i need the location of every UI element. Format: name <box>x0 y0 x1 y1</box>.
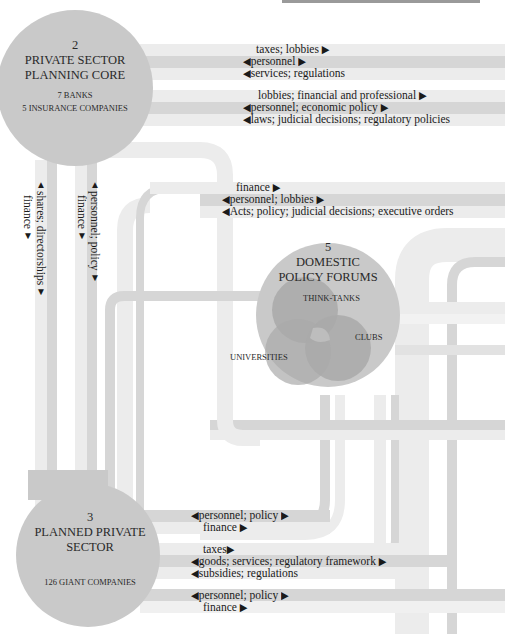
vertical-flow-left: ▲shares; directorships▼ <box>34 178 47 298</box>
policy-forums-title: 5 DOMESTIC POLICY FORUMS <box>258 240 398 285</box>
flow-label: ◀subsidies; regulations <box>191 567 298 580</box>
planning-core-insurance: 5 INSURANCE COMPANIES <box>0 102 150 115</box>
policy-forums-number: 5 <box>258 240 398 255</box>
planning-core-banks: 7 BANKS <box>0 89 150 102</box>
arrow-up-icon: ▲ <box>36 178 46 191</box>
top-rule <box>282 0 480 3</box>
arrow-up-icon: ▲ <box>90 178 100 191</box>
flow-label: ◀laws; judicial decisions; regulatory po… <box>243 113 450 126</box>
vertical-flow-left-2: finance▼ <box>21 195 34 242</box>
arrow-down-icon: ▼ <box>23 229 33 242</box>
planning-core-subtitle: 7 BANKS 5 INSURANCE COMPANIES <box>0 89 150 115</box>
planned-sector-title-2: SECTOR <box>15 540 165 555</box>
planning-core-title-2: PLANNING CORE <box>0 68 150 83</box>
forum-input-bands <box>110 188 280 510</box>
planning-core-title-1: PRIVATE SECTOR <box>0 53 150 68</box>
planning-core-node <box>0 10 153 166</box>
arrow-right-icon: ▶ <box>281 508 289 522</box>
mid-horizontal-band <box>210 420 505 430</box>
planning-core-title: 2 PRIVATE SECTOR PLANNING CORE <box>0 38 150 83</box>
flow-label: ◀services; regulations <box>243 67 345 80</box>
planned-sector-subtitle: 126 GIANT COMPANIES <box>15 575 165 590</box>
venn-label-think-tanks: THINK-TANKS <box>303 291 360 306</box>
arrow-right-icon: ▶ <box>240 520 248 534</box>
arrow-left-icon: ◀ <box>191 588 199 602</box>
arrow-left-icon: ◀ <box>222 204 230 218</box>
planned-sector-number: 3 <box>15 510 165 525</box>
flow-label: finance ▶ <box>203 521 247 534</box>
venn-label-clubs: CLUBS <box>355 330 382 345</box>
arrow-right-icon: ▶ <box>281 588 289 602</box>
arrow-left-icon: ◀ <box>243 112 251 126</box>
vertical-flow-right: ▲personnel; policy▼ <box>88 178 101 284</box>
planning-core-number: 2 <box>0 38 150 53</box>
flow-label: finance ▶ <box>203 601 247 614</box>
arrow-right-icon: ▶ <box>322 42 330 56</box>
arrow-down-icon: ▼ <box>90 271 100 284</box>
arrow-down-icon: ▼ <box>77 229 87 242</box>
flow-label: ◀Acts; policy; judicial decisions; execu… <box>222 205 454 218</box>
arrow-right-icon: ▶ <box>419 88 427 102</box>
venn-label-universities: UNIVERSITIES <box>230 350 288 365</box>
forum-band-1 <box>150 182 505 194</box>
planned-sector-title-1: PLANNED PRIVATE <box>15 525 165 540</box>
policy-forums-title-1: DOMESTIC <box>258 255 398 270</box>
policy-forums-title-2: POLICY FORUMS <box>258 270 398 285</box>
planned-sector-title: 3 PLANNED PRIVATE SECTOR <box>15 510 165 555</box>
arrow-left-icon: ◀ <box>191 566 199 580</box>
arrow-left-icon: ◀ <box>191 508 199 522</box>
arrow-right-icon: ▶ <box>240 600 248 614</box>
arrow-down-icon: ▼ <box>36 285 46 298</box>
planned-sector-node <box>16 483 160 627</box>
arrow-left-icon: ◀ <box>243 66 251 80</box>
vertical-flow-right-2: finance▼ <box>75 195 88 242</box>
arrow-right-icon: ▶ <box>379 554 387 568</box>
